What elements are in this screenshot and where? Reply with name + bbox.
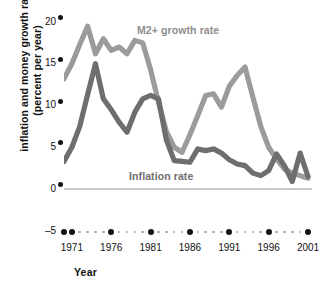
y-tick-label: 15: [22, 58, 56, 68]
series-canvas: [64, 10, 314, 235]
y-tick-dot: [58, 99, 63, 104]
y-axis-tick-labels: 20 15 10 5 0 –5: [22, 0, 56, 283]
x-tick-label: 1996: [249, 243, 289, 253]
y-tick-dot: [58, 140, 63, 145]
y-tick-dot: [58, 57, 63, 62]
y-tick-dot: [58, 182, 63, 187]
x-tick-label: 1981: [131, 243, 171, 253]
series-line-inflation-rate: [64, 64, 308, 182]
y-tick-label: 20: [22, 17, 56, 27]
series-label-inflation-rate: Inflation rate: [129, 170, 193, 182]
y-tick-label: 10: [22, 100, 56, 110]
series-label-m2-growth-rate: M2+ growth rate: [137, 24, 219, 36]
y-tick-label: 5: [22, 142, 56, 152]
y-tick-label: 0: [22, 184, 56, 194]
plot-area: [64, 10, 314, 235]
x-tick-label: 1986: [170, 243, 210, 253]
x-axis-title: Year: [74, 266, 97, 278]
chart-figure: inflation and money growth rate (percent…: [0, 0, 324, 283]
x-tick-label: 2001: [288, 243, 324, 253]
x-tick-label: 1991: [209, 243, 249, 253]
x-tick-label: 1976: [91, 243, 131, 253]
series-line-m2-growth-rate: [64, 26, 308, 178]
y-tick-dot: [58, 15, 63, 20]
y-tick-label: –5: [22, 226, 56, 236]
